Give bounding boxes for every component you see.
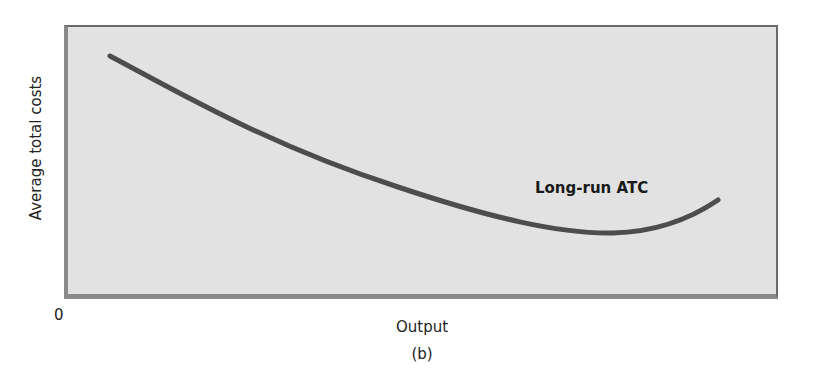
y-axis-label: Average total costs xyxy=(27,76,45,220)
long-run-atc-curve xyxy=(68,27,776,294)
curve-label: Long-run ATC xyxy=(535,179,648,197)
x-axis-label: Output xyxy=(396,318,448,336)
origin-label: 0 xyxy=(54,306,64,324)
figure-caption: (b) xyxy=(411,345,432,363)
plot-area: Long-run ATC xyxy=(64,25,778,299)
